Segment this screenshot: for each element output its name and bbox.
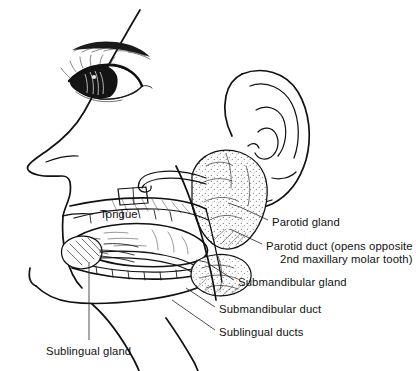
label-submandibular-duct: Submandibular duct bbox=[219, 303, 321, 316]
label-submandibular-gland: Submandibular gland bbox=[238, 276, 347, 289]
salivary-glands-figure: .ln{fill:none;stroke:#111;stroke-linecap… bbox=[0, 0, 416, 371]
label-parotid-gland: Parotid gland bbox=[272, 216, 340, 229]
label-parotid-duct-line2: 2nd maxillary molar tooth) bbox=[280, 253, 413, 266]
sublingual-gland-shape bbox=[62, 236, 103, 269]
label-sublingual-gland: Sublingual gland bbox=[46, 345, 131, 358]
label-sublingual-ducts: Sublingual ducts bbox=[219, 326, 304, 339]
label-parotid-duct: Parotid duct (opens opposite 2nd maxilla… bbox=[266, 240, 416, 266]
label-tongue: Tongue bbox=[100, 208, 138, 221]
anatomical-illustration: .ln{fill:none;stroke:#111;stroke-linecap… bbox=[0, 0, 416, 371]
label-parotid-duct-line1: Parotid duct (opens opposite bbox=[266, 240, 413, 252]
